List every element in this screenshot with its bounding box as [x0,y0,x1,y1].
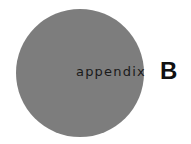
appendix-letter: B [160,57,177,85]
appendix-label: appendix [76,64,146,79]
